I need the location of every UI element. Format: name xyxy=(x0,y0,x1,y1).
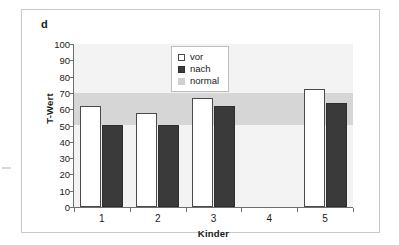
legend-item-nach: nach xyxy=(178,63,219,75)
y-tick-label: 100 xyxy=(44,39,70,50)
y-tick-mark xyxy=(69,142,73,143)
y-tick-label: 90 xyxy=(44,55,70,66)
y-tick-mark xyxy=(69,126,73,127)
y-tick-mark xyxy=(69,109,73,110)
y-tick-label: 50 xyxy=(44,120,70,131)
bar-vor-kind-1 xyxy=(80,106,101,207)
y-tick-label: 20 xyxy=(44,169,70,180)
y-tick-label: 40 xyxy=(44,136,70,147)
x-tick-label: 5 xyxy=(305,213,345,224)
x-tick-label: 1 xyxy=(82,213,122,224)
x-tick-label: 3 xyxy=(194,213,234,224)
x-tick-mark xyxy=(186,208,187,212)
y-tick-mark xyxy=(69,44,73,45)
legend-label: nach xyxy=(190,63,211,75)
legend-label: normal xyxy=(190,75,219,87)
y-tick-mark xyxy=(69,191,73,192)
y-axis-tick-labels: 0102030405060708090100 xyxy=(44,44,70,207)
bar-nach-kind-1 xyxy=(102,125,123,207)
white-square-icon xyxy=(178,54,185,61)
y-tick-mark xyxy=(69,60,73,61)
x-axis-line xyxy=(73,207,353,208)
x-axis-title: Kinder xyxy=(74,228,353,239)
y-tick-label: 30 xyxy=(44,153,70,164)
y-tick-label: 80 xyxy=(44,71,70,82)
x-tick-label: 2 xyxy=(138,213,178,224)
legend-label: vor xyxy=(190,51,203,63)
y-tick-mark xyxy=(69,174,73,175)
x-tick-mark xyxy=(353,208,354,212)
bar-vor-kind-5 xyxy=(304,89,325,207)
dark-square-icon xyxy=(178,66,185,73)
scan-artifact xyxy=(2,167,11,169)
bar-vor-kind-3 xyxy=(192,98,213,207)
x-tick-mark xyxy=(130,208,131,212)
legend-item-vor: vor xyxy=(178,51,219,63)
x-tick-mark xyxy=(74,208,75,212)
bar-nach-kind-5 xyxy=(326,103,347,207)
chart-legend: vornachnormal xyxy=(171,46,229,92)
light-gray-square-icon xyxy=(178,78,185,85)
y-tick-mark xyxy=(69,207,73,208)
y-tick-label: 0 xyxy=(44,202,70,213)
x-tick-mark xyxy=(241,208,242,212)
figure-frame: d T-Wert 0102030405060708090100 12345 Ki… xyxy=(21,9,380,233)
x-tick-label: 4 xyxy=(249,213,289,224)
bar-nach-kind-3 xyxy=(214,106,235,207)
bar-nach-kind-2 xyxy=(158,125,179,207)
y-tick-mark xyxy=(69,93,73,94)
y-tick-label: 70 xyxy=(44,87,70,98)
y-tick-label: 10 xyxy=(44,185,70,196)
x-tick-mark xyxy=(297,208,298,212)
y-tick-mark xyxy=(69,77,73,78)
legend-item-normal: normal xyxy=(178,75,219,87)
y-tick-mark xyxy=(69,158,73,159)
panel-label: d xyxy=(41,18,48,30)
y-tick-label: 60 xyxy=(44,104,70,115)
bar-vor-kind-2 xyxy=(136,113,157,207)
x-axis-tick-labels: 12345 xyxy=(74,213,353,229)
